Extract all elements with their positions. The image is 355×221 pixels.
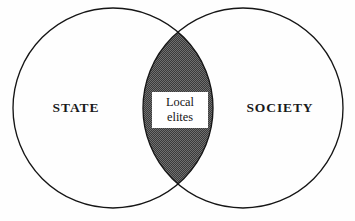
venn-diagram: STATE SOCIETY Local elites (0, 0, 355, 221)
intersection-label-line-2: elites (167, 110, 193, 124)
set-label-society: SOCIETY (246, 100, 313, 115)
intersection-label-line-1: Local (166, 95, 195, 109)
set-label-state: STATE (53, 100, 100, 115)
venn-diagram-canvas: STATE SOCIETY Local elites (0, 0, 355, 221)
